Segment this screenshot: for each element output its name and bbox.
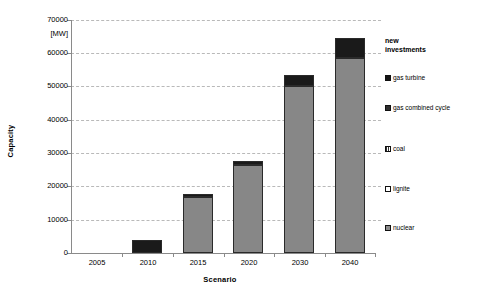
legend-label-lignite: lignite: [393, 185, 410, 192]
x-tickmark-end: [375, 253, 376, 257]
legend-swatch-lignite-icon: [385, 186, 391, 192]
legend-label-gas-combined-cycle: gas combined cycle: [393, 104, 450, 111]
x-tickmark-2030-2040: [325, 253, 326, 257]
x-tick-label-2040: 2040: [324, 258, 376, 267]
bar-segment-2020-gas-turbine: [233, 161, 263, 165]
bar-2010[interactable]: [132, 240, 162, 253]
legend-item-coal[interactable]: coal: [385, 145, 405, 152]
legend-swatch-nuclear-icon: [385, 225, 391, 231]
y-tick-label-20000: 20000: [20, 182, 68, 190]
x-tick-label-2030: 2030: [274, 258, 326, 267]
bar-2020[interactable]: [233, 161, 263, 253]
bar-segment-2020-nuclear: [233, 165, 263, 253]
x-tickmark-2005-2010: [122, 253, 123, 257]
y-axis-unit-label: [MW]: [20, 29, 68, 38]
gridline-70000: [71, 20, 381, 21]
legend-label-nuclear: nuclear: [393, 224, 414, 231]
legend-title: new investments: [385, 36, 477, 54]
legend-item-gas-turbine[interactable]: gas turbine: [385, 74, 425, 81]
bar-segment-2015-nuclear: [183, 197, 213, 253]
y-tick-label-0: 0: [20, 249, 68, 257]
bar-segment-2015-gas-turbine: [183, 194, 213, 198]
y-axis-title: Capacity: [6, 96, 15, 186]
x-tick-label-2015: 2015: [172, 258, 224, 267]
x-tickmark-2020-2030: [274, 253, 275, 257]
bar-segment-2040-nuclear: [335, 58, 365, 253]
x-axis-title: Scenario: [150, 275, 290, 284]
legend-item-gas-combined-cycle[interactable]: gas combined cycle: [385, 104, 450, 111]
legend-swatch-gas-turbine-icon: [385, 75, 391, 81]
x-tick-label-2005: 2005: [71, 258, 123, 267]
y-tick-label-30000: 30000: [20, 149, 68, 157]
legend-title-line2: investments: [385, 46, 426, 53]
y-axis-line: [71, 20, 72, 253]
bar-segment-2030-gas-turbine: [284, 75, 314, 86]
bar-segment-2040-gas-turbine: [335, 38, 365, 58]
x-tickmark-2010-2015: [173, 253, 174, 257]
legend-label-coal: coal: [393, 145, 405, 152]
legend-swatch-coal-icon: [385, 146, 391, 152]
x-tick-label-2010: 2010: [122, 258, 174, 267]
bar-segment-2030-nuclear: [284, 86, 314, 253]
legend-title-line1: new: [385, 37, 399, 44]
legend-item-lignite[interactable]: lignite: [385, 185, 410, 192]
bar-segment-2010-gas-turbine: [132, 240, 162, 253]
x-tick-label-2020: 2020: [223, 258, 275, 267]
bar-2015[interactable]: [183, 194, 213, 253]
y-tick-label-50000: 50000: [20, 82, 68, 90]
y-tick-label-40000: 40000: [20, 116, 68, 124]
legend-item-nuclear[interactable]: nuclear: [385, 224, 414, 231]
bar-2030[interactable]: [284, 75, 314, 253]
y-tick-label-70000: 70000: [20, 16, 68, 24]
bar-2040[interactable]: [335, 38, 365, 253]
legend-swatch-gas-combined-cycle-icon: [385, 105, 391, 111]
y-tick-label-60000: 60000: [20, 49, 68, 57]
x-tickmark-2015-2020: [224, 253, 225, 257]
y-tick-label-10000: 10000: [20, 216, 68, 224]
legend-label-gas-turbine: gas turbine: [393, 74, 425, 81]
capacity-scenario-chart: Capacity [MW] 70000 60000 50000 40000 30…: [0, 0, 478, 300]
